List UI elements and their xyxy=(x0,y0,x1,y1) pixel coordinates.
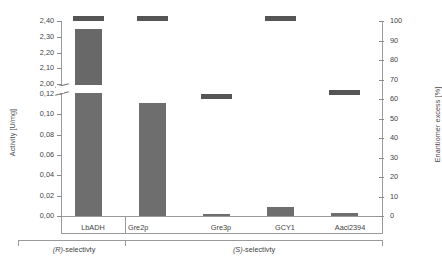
y-ticklabel-left-0-08: 0,08 xyxy=(0,131,54,138)
y-ticklabel-right-90: 90 xyxy=(390,37,430,44)
y-ticklabel-left-0-06: 0,06 xyxy=(0,151,54,158)
y-ticklabel-right-30: 30 xyxy=(390,154,430,161)
group-bracket-r-line xyxy=(18,240,125,241)
y-tick-left-2-40 xyxy=(57,21,62,22)
y-ticklabel-left-2-00: 2,00 xyxy=(0,80,54,87)
y-tick-right-20 xyxy=(379,177,384,178)
y-ticklabel-left-0-04: 0,04 xyxy=(0,171,54,178)
y-ticklabel-left-2-10: 2,10 xyxy=(0,64,54,71)
y-ticklabel-left-0-10: 0,10 xyxy=(0,110,54,117)
x-axis-line xyxy=(61,216,383,217)
y-tick-left-0-08 xyxy=(57,135,62,136)
y-tick-left-0-04 xyxy=(57,175,62,176)
y-tick-right-70 xyxy=(379,80,384,81)
category-label-aaci2394: Aaci2394 xyxy=(317,223,383,232)
y-tick-right-10 xyxy=(379,197,384,198)
activity-bar-gre3p xyxy=(203,214,230,216)
activity-bar-gcy1 xyxy=(267,207,294,216)
y-tick-left-2-20 xyxy=(57,53,62,54)
category-label-gcy1: GCY1 xyxy=(253,223,317,232)
ee-marker-gre2p xyxy=(137,16,168,21)
y-tick-left-0-02 xyxy=(57,196,62,197)
group-label-r-selectivity: (R)-selectivty xyxy=(26,245,122,254)
y-tick-right-60 xyxy=(379,99,384,100)
y-ticklabel-right-60: 60 xyxy=(390,95,430,102)
ee-marker-lbadh xyxy=(73,16,104,21)
y-ticklabel-left-2-20: 2,20 xyxy=(0,49,54,56)
plot-area: 2,40 2,30 2,20 2,10 2,00 0,12 0,10 0,08 … xyxy=(61,21,383,217)
y-tick-right-30 xyxy=(379,158,384,159)
y-ticklabel-left-2-30: 2,30 xyxy=(0,33,54,40)
group-bracket-s-end xyxy=(382,240,383,246)
y-ticklabel-right-50: 50 xyxy=(390,115,430,122)
y-tick-right-80 xyxy=(379,60,384,61)
y-ticklabel-right-70: 70 xyxy=(390,76,430,83)
y-tick-left-0-10 xyxy=(57,114,62,115)
activity-bar-aaci2394 xyxy=(331,213,358,217)
y-tick-right-90 xyxy=(379,41,384,42)
y-axis-right-title: Enantiomer excess [%] xyxy=(433,69,442,181)
y-tick-right-50 xyxy=(379,119,384,120)
y-ticklabel-right-20: 20 xyxy=(390,173,430,180)
group-label-s-prefix: (S) xyxy=(233,245,243,254)
category-row-bottom-line xyxy=(61,233,383,234)
y-ticklabel-left-2-40: 2,40 xyxy=(0,17,54,24)
activity-bar-lbadh-lower xyxy=(75,93,102,216)
y-tick-right-100 xyxy=(379,21,384,22)
axis-break-whiteout xyxy=(56,86,64,93)
ee-marker-gcy1 xyxy=(265,16,296,21)
y-ticklabel-right-10: 10 xyxy=(390,193,430,200)
y-tick-right-40 xyxy=(379,138,384,139)
y-ticklabel-left-0-12: 0,12 xyxy=(0,90,54,97)
y-ticklabel-right-40: 40 xyxy=(390,134,430,141)
activity-bar-lbadh-upper xyxy=(75,29,102,85)
category-label-gre3p: Gre3p xyxy=(189,223,253,232)
ee-marker-gre3p xyxy=(201,94,232,99)
y-ticklabel-left-0-00: 0,00 xyxy=(0,212,54,219)
y-tick-left-2-30 xyxy=(57,37,62,38)
y-tick-left-2-10 xyxy=(57,68,62,69)
y-ticklabel-right-80: 80 xyxy=(390,56,430,63)
y-tick-left-0-06 xyxy=(57,155,62,156)
group-label-r-prefix: (R) xyxy=(53,245,63,254)
category-label-gre2p: Gre2p xyxy=(128,223,192,232)
y-ticklabel-right-0: 0 xyxy=(390,212,430,219)
activity-bar-gre2p xyxy=(139,103,166,216)
y-ticklabel-right-100: 100 xyxy=(390,17,430,24)
category-label-lbadh: LbADH xyxy=(61,223,125,232)
category-divider-1 xyxy=(125,217,126,234)
group-label-r-suffix: -selectivty xyxy=(63,245,95,254)
y-ticklabel-left-0-02: 0,02 xyxy=(0,192,54,199)
group-label-s-suffix: -selectivty xyxy=(243,245,275,254)
y-tick-left-0-12 xyxy=(57,94,62,95)
ee-marker-aaci2394 xyxy=(329,90,360,95)
group-label-s-selectivity: (S)-selectivty xyxy=(130,245,378,254)
y-axis-left-line xyxy=(61,21,62,217)
group-bracket-s-line xyxy=(125,240,382,241)
